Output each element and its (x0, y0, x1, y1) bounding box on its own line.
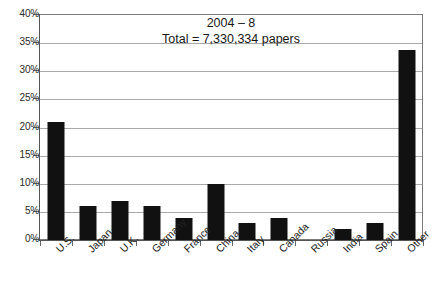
y-tick-label: 20% (5, 122, 39, 132)
y-tick-label: 35% (5, 37, 39, 47)
bar-slot (232, 15, 264, 240)
y-tick-label: 30% (5, 65, 39, 75)
bar-slot (104, 15, 136, 240)
bar-slot (359, 15, 391, 240)
y-tick-label: 15% (5, 150, 39, 160)
bar-slot (391, 15, 423, 240)
y-tick-label: 25% (5, 93, 39, 103)
y-tick-label: 10% (5, 178, 39, 188)
bar (143, 206, 160, 240)
x-tick-mark (40, 241, 41, 246)
bar (399, 50, 416, 240)
bar (79, 206, 96, 240)
bar-slot (72, 15, 104, 240)
bar-slot (200, 15, 232, 240)
bar-slot (168, 15, 200, 240)
y-tick-label: 0% (5, 234, 39, 244)
bar-chart: 0%5%10%15%20%25%30%35%40% U.S.JapanU.K.G… (0, 0, 436, 303)
y-tick-label: 5% (5, 206, 39, 216)
y-axis: 0%5%10%15%20%25%30%35%40% (0, 0, 39, 303)
bar-slot (136, 15, 168, 240)
bar-slot (327, 15, 359, 240)
bar-slot (263, 15, 295, 240)
bar-slot (295, 15, 327, 240)
bars-layer (40, 15, 423, 240)
y-tick-label: 40% (5, 9, 39, 19)
bar (47, 122, 64, 240)
x-axis-labels: U.S.JapanU.K.GermanyFranceChinaItalyCana… (40, 247, 423, 303)
bar-slot (40, 15, 72, 240)
